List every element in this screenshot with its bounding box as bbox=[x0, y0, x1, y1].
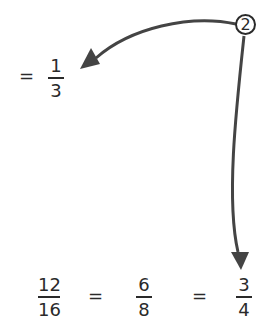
step-marker-2: 2 bbox=[235, 14, 256, 35]
fraction-bar bbox=[38, 296, 60, 298]
fraction-one-third: 1 3 bbox=[48, 56, 64, 101]
denominator: 16 bbox=[38, 300, 61, 320]
numerator: 1 bbox=[50, 56, 61, 76]
denominator: 4 bbox=[238, 300, 249, 320]
fraction-bar bbox=[48, 77, 64, 79]
step-number: 2 bbox=[240, 15, 250, 34]
fraction-bar bbox=[136, 296, 152, 298]
denominator: 3 bbox=[50, 81, 61, 101]
denominator: 8 bbox=[138, 300, 149, 320]
numerator: 3 bbox=[238, 275, 249, 295]
equals-sign: = bbox=[88, 287, 103, 305]
arrow-to-one-third bbox=[96, 21, 236, 58]
arrow-to-three-quarters bbox=[232, 36, 244, 252]
equals-sign: = bbox=[19, 67, 34, 85]
equals-sign: = bbox=[192, 287, 207, 305]
fraction-3-4: 3 4 bbox=[236, 275, 252, 320]
fraction-12-16: 12 16 bbox=[38, 275, 61, 320]
fraction-bar bbox=[236, 296, 252, 298]
fraction-6-8: 6 8 bbox=[136, 275, 152, 320]
numerator: 12 bbox=[38, 275, 61, 295]
numerator: 6 bbox=[138, 275, 149, 295]
arrowhead-down-icon bbox=[231, 252, 249, 270]
